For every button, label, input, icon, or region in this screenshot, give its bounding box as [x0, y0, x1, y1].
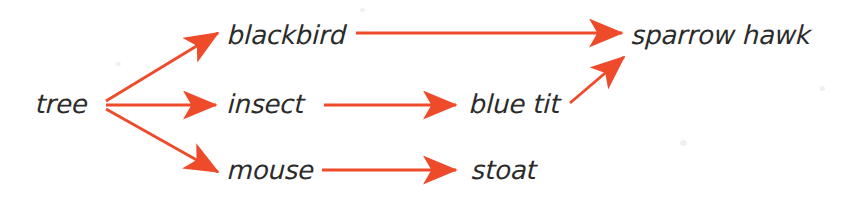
node-label-blue_tit: blue tit	[469, 92, 561, 118]
node-label-insect: insect	[227, 92, 305, 118]
node-label-tree: tree	[35, 92, 88, 118]
node-label-sparrow_hawk: sparrow hawk	[631, 23, 812, 49]
arrow-tree-mouse	[106, 109, 218, 172]
arrow-tree-blackbird	[106, 33, 218, 101]
arrow-bluetit-sparrowhawk	[570, 57, 624, 103]
node-label-blackbird: blackbird	[227, 23, 347, 49]
food-web-diagram: treeblackbirdinsectmouseblue titstoatspa…	[0, 0, 841, 207]
node-label-stoat: stoat	[471, 158, 537, 184]
node-label-mouse: mouse	[227, 158, 315, 184]
